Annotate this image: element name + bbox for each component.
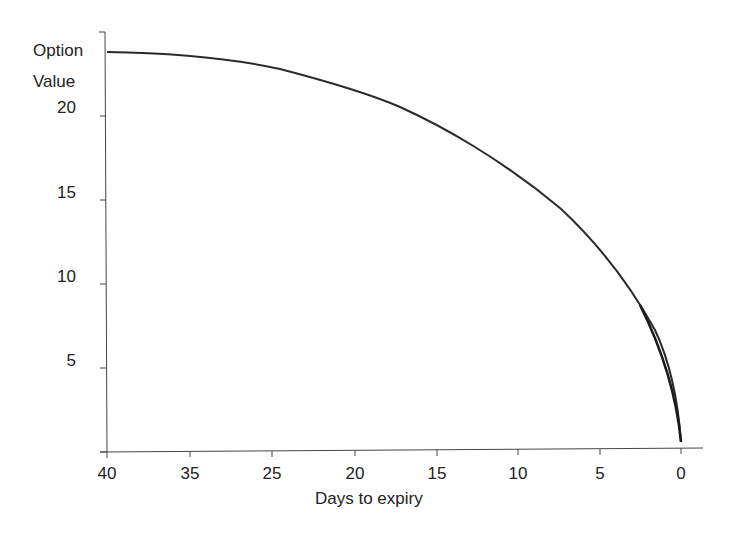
x-tick-label: 10 [498,464,538,484]
y-axis [105,32,107,452]
x-tick-label: 20 [335,464,375,484]
x-axis-title: Days to expiry [315,489,423,509]
chart-canvas [0,0,733,538]
x-ticks [107,448,681,458]
x-tick-label: 15 [417,464,457,484]
y-tick-label-5: 5 [36,351,76,371]
y-tick-label-10: 10 [36,267,76,287]
x-tick-label: 35 [170,464,210,484]
y-axis-title-line2: Value [33,72,75,92]
x-tick-label: 5 [580,464,620,484]
y-tick-label-15: 15 [36,183,76,203]
x-tick-label: 25 [252,464,292,484]
y-tick-label-20: 20 [36,98,76,118]
x-tick-label: 0 [661,464,701,484]
x-tick-label: 40 [87,464,127,484]
option-value-curve [107,52,681,442]
y-axis-title-line1: Option [33,41,83,61]
